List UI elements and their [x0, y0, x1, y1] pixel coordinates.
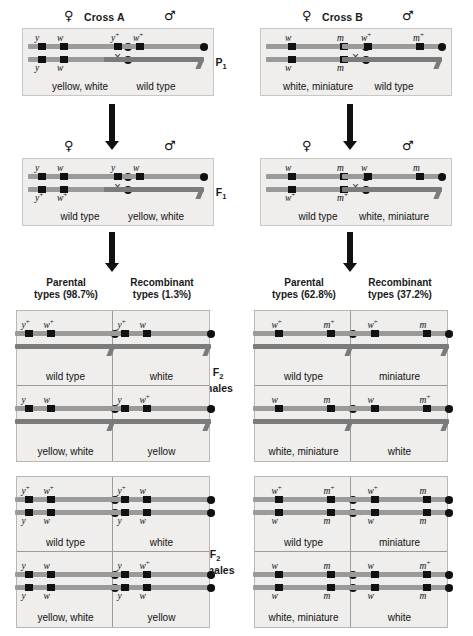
y-chromosome: [15, 344, 119, 356]
arrow-head: [105, 263, 119, 272]
gene-band-w: [143, 571, 151, 578]
y-chromosome: [349, 344, 453, 356]
gene-band-y: [25, 405, 33, 412]
phenotype-label: wild type: [17, 371, 114, 382]
y-chromosome-bar: [342, 57, 442, 62]
gene-band-m: [327, 571, 335, 578]
gene-band-w: [288, 173, 296, 180]
f2-cell-cross-b-female-recombinant-1: wm+wmwhite: [351, 552, 447, 627]
chromosome-bar: [349, 510, 453, 515]
allele-bottom-w: w: [140, 517, 146, 527]
gene-band-m: [416, 43, 424, 50]
allele-bottom-cross-a-f1-female-y: y+: [35, 194, 43, 204]
chromosome-bar: [349, 585, 453, 590]
x-chromosome-bottom: [253, 585, 357, 590]
gene-band-w: [143, 496, 151, 503]
centromere-dot: [207, 584, 215, 592]
allele-bottom-m: m: [324, 517, 331, 527]
centromere-dot: [207, 496, 215, 504]
gene-band-w: [47, 571, 55, 578]
parental-types-header-cross-a: Parentaltypes (98.7%): [16, 277, 116, 301]
cross-title-cross-a: Cross A: [84, 11, 125, 23]
phenotype-label: white: [351, 612, 448, 623]
gene-band-w: [47, 330, 55, 337]
f2-cell-cross-a-male-parental-1: ywyellow, white: [17, 386, 113, 461]
x-chromosome-cross-a-p1-male: [104, 44, 208, 49]
phenotype-label: wild type: [17, 537, 114, 548]
gene-band-w: [136, 173, 144, 180]
gene-band-y: [121, 330, 129, 337]
centromere-dot: [445, 496, 453, 504]
generation-label-p1: P1: [196, 56, 246, 72]
y-chromosome: [253, 419, 357, 431]
f2-grid-cross-b-males: w+m+wild typew+mminiaturewmwhite, miniat…: [254, 310, 448, 462]
centromere-dot: [438, 173, 446, 181]
gene-band-y: [121, 509, 129, 516]
allele-bottom-cross-a-f1-female-w: w+: [57, 194, 67, 204]
gene-band-w: [47, 496, 55, 503]
gene-band-y: [38, 43, 46, 50]
allele-bottom-m: m: [324, 592, 331, 602]
chromosome-bar: [253, 572, 357, 577]
x-chromosome-top: [15, 406, 119, 411]
arrow-shaft: [109, 104, 115, 141]
female-symbol-cross-a-p1: ♀: [64, 9, 74, 22]
recombinant-types-header-cross-a: Recombinanttypes (1.3%): [112, 277, 212, 301]
x-chromosome-top: [15, 497, 119, 502]
generation-arrow-4: [341, 232, 359, 272]
gene-band-y: [121, 571, 129, 578]
phenotype-label: yellow, white: [17, 446, 114, 457]
f2-cell-cross-b-female-parental-1: wmwmwhite, miniature: [255, 552, 351, 627]
generation-arrow-1: [103, 104, 121, 150]
gene-band-m: [423, 405, 431, 412]
phenotype-label: yellow: [113, 446, 210, 457]
x-chromosome-bottom: [15, 510, 119, 515]
male-symbol-cross-b-f1: ♂: [402, 139, 414, 152]
centromere-dot: [445, 509, 453, 517]
gene-band-w: [371, 496, 379, 503]
gene-band-m: [423, 584, 431, 591]
phenotype-cross-b-f1-male: white, miniature: [342, 211, 446, 222]
f2-cell-cross-a-female-recombinant-0: y+wywwhite: [113, 477, 209, 552]
arrow-shaft: [109, 232, 115, 263]
x-chromosome-cross-b-p1-male: [342, 44, 446, 49]
phenotype-label: white: [351, 446, 448, 457]
chromosome-bar: [253, 497, 357, 502]
gene-band-y: [25, 571, 33, 578]
allele-bottom-m: m: [420, 592, 427, 602]
arrow-head: [105, 141, 119, 150]
male-symbol-cross-b-p1: ♂: [402, 9, 414, 22]
phenotype-label: wild type: [255, 371, 352, 382]
f2-cell-cross-a-female-parental-0: y+w+ywwild type: [17, 477, 113, 552]
gene-band-y: [121, 584, 129, 591]
gene-band-w: [47, 405, 55, 412]
phenotype-label: white: [113, 537, 210, 548]
gene-band-y: [38, 56, 46, 63]
generation-label-f1: F1: [196, 186, 246, 202]
chromosome-bar: [342, 44, 446, 49]
centromere-dot: [200, 173, 208, 181]
y-chromosome-bar: [349, 344, 449, 349]
x-chromosome-cross-a-f1-male: [104, 174, 208, 179]
allele-bottom-cross-a-p1-female-y: y: [35, 64, 39, 74]
x-chromosome-top: [253, 572, 357, 577]
y-chromosome: [111, 344, 215, 356]
x-chromosome-top: [349, 331, 453, 336]
allele-bottom-m: m: [420, 517, 427, 527]
centromere-dot: [207, 405, 215, 413]
gene-band-y: [38, 173, 46, 180]
centromere-dot: [445, 584, 453, 592]
gene-band-m: [327, 330, 335, 337]
gene-band-w: [371, 405, 379, 412]
x-chromosome-bottom: [111, 510, 215, 515]
gene-band-w: [371, 330, 379, 337]
y-chromosome: [253, 344, 357, 356]
gene-band-w: [371, 571, 379, 578]
recombinant-types-header-cross-b: Recombinanttypes (37.2%): [350, 277, 450, 301]
x-chromosome-top: [111, 406, 215, 411]
generation-arrow-3: [103, 232, 121, 272]
y-chromosome: [15, 419, 119, 431]
phenotype-label: miniature: [351, 537, 448, 548]
gene-band-m: [327, 509, 335, 516]
y-chromosome-bar: [342, 187, 442, 192]
